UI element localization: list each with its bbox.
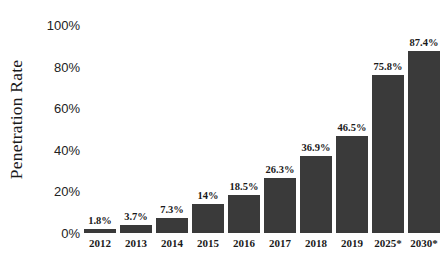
y-axis-tick-80: 80% — [54, 59, 80, 74]
bar-value-label: 1.8% — [88, 216, 112, 227]
bar-group: 3.7%2013 — [120, 0, 152, 262]
x-axis-label-2030-projected: 2030* — [410, 238, 438, 249]
bar-2025-projected[interactable] — [372, 75, 404, 233]
bar-group: 18.5%2016 — [228, 0, 260, 262]
y-axis-tick-100: 100% — [47, 18, 80, 33]
bar-2018[interactable] — [300, 156, 332, 233]
x-axis-label-2015: 2015 — [197, 238, 219, 249]
plot-area: 1.8%20123.7%20137.3%201414%201518.5%2016… — [84, 0, 444, 262]
bar-value-label: 7.3% — [160, 205, 184, 216]
bar-2017[interactable] — [264, 178, 296, 233]
bar-2030-projected[interactable] — [408, 51, 440, 233]
y-axis-tick-20: 20% — [54, 184, 80, 199]
x-axis-label-2014: 2014 — [161, 238, 183, 249]
bar-group: 26.3%2017 — [264, 0, 296, 262]
bar-group: 87.4%2030* — [408, 0, 440, 262]
bar-value-label: 36.9% — [302, 143, 331, 154]
x-axis-label-2017: 2017 — [269, 238, 291, 249]
x-axis-label-2013: 2013 — [125, 238, 147, 249]
bar-2012[interactable] — [84, 229, 116, 233]
bar-value-label: 18.5% — [230, 182, 259, 193]
bar-chart: Penetration Rate 0%20%40%60%80%100% 1.8%… — [0, 0, 446, 262]
y-axis-tick-labels: 0%20%40%60%80%100% — [34, 0, 84, 262]
bar-group: 14%2015 — [192, 0, 224, 262]
bar-2013[interactable] — [120, 225, 152, 233]
bar-group: 75.8%2025* — [372, 0, 404, 262]
bar-value-label: 87.4% — [410, 38, 439, 49]
y-axis-tick-0: 0% — [61, 226, 80, 241]
bar-2019[interactable] — [336, 136, 368, 233]
bar-2015[interactable] — [192, 204, 224, 233]
bar-2014[interactable] — [156, 218, 188, 233]
bar-group: 1.8%2012 — [84, 0, 116, 262]
bar-value-label: 75.8% — [374, 62, 403, 73]
bar-group: 36.9%2018 — [300, 0, 332, 262]
bar-value-label: 3.7% — [124, 212, 148, 223]
y-axis-tick-40: 40% — [54, 142, 80, 157]
y-axis-title-text: Penetration Rate — [7, 59, 28, 178]
y-axis-tick-60: 60% — [54, 101, 80, 116]
y-axis-title: Penetration Rate — [0, 0, 34, 238]
x-axis-label-2018: 2018 — [305, 238, 327, 249]
bar-group: 7.3%2014 — [156, 0, 188, 262]
x-axis-label-2016: 2016 — [233, 238, 255, 249]
x-axis-label-2012: 2012 — [89, 238, 111, 249]
bar-value-label: 26.3% — [266, 165, 295, 176]
bar-value-label: 14% — [198, 191, 219, 202]
x-axis-label-2025-projected: 2025* — [374, 238, 402, 249]
bar-2016[interactable] — [228, 195, 260, 233]
x-axis-label-2019: 2019 — [341, 238, 363, 249]
bar-group: 46.5%2019 — [336, 0, 368, 262]
bar-value-label: 46.5% — [338, 123, 367, 134]
